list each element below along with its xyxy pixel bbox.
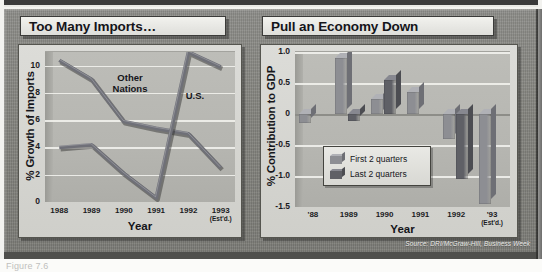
figure-root: Source: DRI/McGraw-Hill, Business Week T… [0, 0, 542, 272]
x-tick-label: '88 [295, 210, 331, 219]
legend-swatch [330, 154, 345, 164]
bar-side [468, 104, 473, 174]
figure-caption: Figure 7.6 [6, 261, 156, 272]
bar-side [347, 51, 352, 109]
y-tick-label: -1.0 [261, 170, 290, 180]
x-tick-label: 1992 [438, 210, 474, 219]
gridline [295, 52, 510, 54]
legend-item: Last 2 quarters [330, 166, 424, 181]
bar [456, 114, 468, 179]
y-tick-label: 8 [19, 87, 40, 97]
bar-front [407, 92, 419, 114]
x-tick-label: 1989 [331, 210, 367, 219]
bar [348, 114, 360, 121]
bar-side [419, 82, 424, 109]
legend-item: First 2 quarters [330, 151, 424, 166]
bar [371, 99, 383, 115]
plot-left-wall [295, 52, 303, 207]
series-label: OtherNations [107, 73, 153, 94]
plate-bottom-edge [4, 252, 538, 259]
chart-frame-gdp: % Contribution to GDP 1.00.50-0.5-1.0-1.… [260, 44, 518, 238]
y-tick-label: 0 [19, 196, 40, 206]
bar-front [384, 80, 396, 114]
bar [443, 114, 455, 139]
bar [479, 114, 491, 204]
x-tick-label: 1990 [367, 210, 403, 219]
bar-front [348, 114, 360, 121]
y-tick-label: -1.5 [261, 201, 290, 211]
chart-title-gdp: Pull an Economy Down [262, 16, 494, 36]
top-rule-edge [4, 5, 538, 7]
gridline [295, 83, 510, 85]
bar-side [311, 104, 316, 118]
chart-frame-imports: % Growth of Imports 0246810 198819891990… [18, 44, 242, 238]
bar-front [299, 114, 311, 123]
bar [299, 114, 311, 123]
x-tick-label: 1988 [41, 206, 77, 215]
y-tick-label: -0.5 [261, 139, 290, 149]
bar-side [396, 70, 401, 109]
bar [407, 92, 419, 114]
bar-front [479, 114, 491, 204]
chart-panel-gdp: Pull an Economy Down % Contribution to G… [256, 16, 524, 244]
x-tick-label: 1990 [106, 206, 142, 215]
x-tick-label: 1991 [138, 206, 174, 215]
bar-front [335, 58, 347, 114]
legend-swatch [330, 169, 345, 179]
bar [384, 80, 396, 114]
x-axis-title-imports: Year [45, 220, 235, 232]
x-tick-label: 1992 [170, 206, 206, 215]
bar-side [491, 104, 496, 199]
bar-front [443, 114, 455, 139]
y-tick-label: 4 [19, 141, 40, 151]
x-axis-title-gdp: Year [295, 223, 510, 235]
y-tick-label: 10 [19, 60, 40, 70]
plate-right-shadow [536, 9, 542, 259]
y-tick-label: 0 [261, 108, 290, 118]
bar [335, 58, 347, 114]
y-tick-label: 6 [19, 114, 40, 124]
y-tick-label: 2 [19, 169, 40, 179]
legend-gdp: First 2 quartersLast 2 quarters [323, 146, 431, 186]
y-tick-label: 1.0 [261, 46, 290, 56]
bar-front [371, 99, 383, 115]
x-tick-label: 1991 [402, 210, 438, 219]
legend-label: Last 2 quarters [350, 169, 407, 179]
legend-label: First 2 quarters [350, 154, 407, 164]
bar-front [456, 114, 468, 179]
chart-panel-imports: Too Many Imports… % Growth of Imports 02… [14, 16, 246, 244]
series-label: U.S. [180, 91, 210, 102]
y-tick-label: 0.5 [261, 77, 290, 87]
chart-title-imports: Too Many Imports… [20, 16, 226, 36]
x-tick-label: 1989 [74, 206, 110, 215]
